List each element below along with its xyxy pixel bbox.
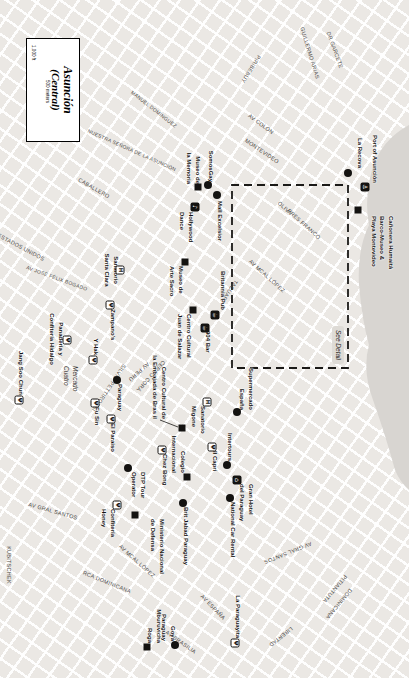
poi-label-il-capri: Il Capri [210, 451, 219, 479]
fork-icon: Ψ [15, 396, 24, 405]
map-title-line1: Asunción [60, 39, 75, 141]
poi-label-intertours: Intertours [225, 418, 234, 461]
map-title-line2: (Central) [50, 39, 62, 141]
poi-label-centro-cultural-juan-de-salazar: Centro CulturalJuan de Salazar [176, 314, 193, 370]
poi-marker-goya [171, 641, 179, 649]
poi-label-museo-de-la-memoria: Museo dela Memoria [185, 146, 202, 184]
poi-marker-ca-onera-humait [355, 207, 362, 214]
poi-label-port-of-asunci-n: Port of Asunción [370, 131, 379, 183]
poi-label-sanatorio-migone: SanatorioMigone [190, 406, 207, 442]
poi-marker-somosgay [204, 181, 212, 189]
see-detail-tag: See Detail [332, 326, 344, 364]
cup-icon: ☕ [201, 324, 210, 333]
poi-label-hollywood-dance: HollywoodDance [178, 212, 195, 252]
fork-icon: Ψ [158, 446, 167, 455]
map-page: Asunción (Central) 500 meters 1,000 ft S… [0, 0, 409, 678]
fork-icon: Ψ [91, 399, 100, 408]
poi-marker-ministerio-nacional [132, 512, 139, 519]
fork-icon: Ψ [107, 415, 116, 424]
poi-label-zampano-s: Zampano's [108, 309, 117, 347]
poi-marker-paraguay [113, 376, 121, 384]
fork-icon: Ψ [113, 501, 122, 510]
poi-label-national-car-rental: National Car Rental [228, 502, 237, 570]
poi-label-somosgay: SomosGay [206, 146, 215, 182]
hospital-icon: H [116, 266, 125, 275]
music-icon: ♪ [191, 203, 200, 212]
poi-label-paraguay: Paraguay [115, 384, 124, 418]
poi-marker-museo-de [195, 184, 202, 191]
cup-icon: ☕ [211, 311, 220, 320]
poi-marker-la-recova [344, 169, 352, 177]
scale-meters-label: 500 meters [45, 80, 50, 103]
poi-marker-dtp-tour [124, 464, 132, 472]
hotel-icon: ⌂ [233, 476, 242, 485]
poi-label-brit-jabad-paraguay: Brit Jabad Paraguay [181, 507, 190, 575]
poi-marker-colegio [184, 474, 191, 481]
poi-marker-national-car-rental [226, 494, 234, 502]
fork-icon: Ψ [89, 356, 98, 365]
poi-label-fu-sin: Fu Sin [92, 407, 101, 433]
poi-marker-centro-cultural [190, 307, 197, 314]
poi-label-904-bar: 904 Bar [203, 331, 212, 361]
map-canvas: Asunción (Central) 500 meters 1,000 ft S… [0, 0, 409, 678]
poi-marker-intertours [223, 461, 231, 469]
anchor-icon: ⚓ [361, 183, 370, 192]
poi-label-chez-bong: Chez Bong [160, 454, 169, 492]
poi-label-confiter-a-honey: ConfiteríaHoney [100, 509, 117, 547]
poi-marker-mall-excelsior [213, 191, 221, 199]
poi-marker-mburuvicha [144, 644, 151, 651]
poi-label-colegio-internacional: ColegioInternacional [170, 426, 187, 473]
scale-feet-label: 1,000 ft [31, 45, 36, 60]
fork-icon: Ψ [63, 336, 72, 345]
poi-label-supermercado-espa-a: SupermercadoEspaña [238, 358, 255, 410]
poi-label-gran-hotel-del-paraguay: Gran Hoteldel Paraguay [238, 484, 255, 530]
poi-label-la-paraguayita: La Paraguayita [233, 586, 242, 638]
poi-label-ministerio-nacional-de-defensa: Ministerio Nacionalde Defensa [149, 519, 166, 583]
poi-label-el-paraiso: El Paraiso [108, 423, 117, 459]
poi-label-centro-cultural-de-la-embajada-de-bras-il: Centro Cultural dela Embajada de Bras il [151, 352, 168, 419]
poi-marker-supermercado [233, 408, 241, 416]
poi-label-goya-paraguay: GoyaParaguay [160, 599, 177, 641]
poi-label-la-recova: La Recova [355, 118, 364, 168]
fork-icon: Ψ [208, 443, 217, 452]
fork-icon: Ψ [106, 301, 115, 310]
poi-label-britannia-pub: Britannia Pub [218, 264, 227, 310]
poi-label-y-hak: Y Hak [91, 332, 100, 355]
hospital-icon: H [203, 398, 212, 407]
poi-label-mall-excelsior: Mall Excelsior [215, 201, 224, 253]
poi-marker-centro-cultural-de [179, 425, 186, 432]
poi-label-dtp-tour-operator: DTP TourOperator [130, 472, 147, 506]
street-label-kubitschek: KUBITSCHEK [6, 546, 12, 584]
poi-label-ca-onera-humait-barco-museo-playa-montevideo: Cañonera HumaitáBarco-Museo &Playa Monte… [369, 216, 395, 286]
water-area [359, 125, 409, 490]
poi-label-museo-de-arte-sacro: Museo deArte Sacro [168, 266, 185, 306]
poi-marker-brit-jabad-paraguay [179, 499, 187, 507]
poi-marker-museo-de [182, 259, 189, 266]
poi-label-jang-soo-chun: Jang Soo Chun [16, 345, 25, 395]
fork-icon: Ψ [231, 639, 240, 648]
